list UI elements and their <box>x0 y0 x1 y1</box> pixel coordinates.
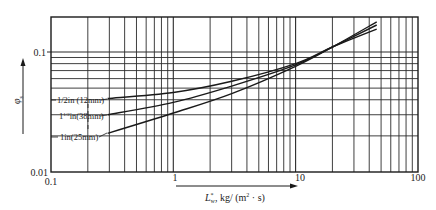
svg-text:1in(25mm): 1in(25mm) <box>60 132 98 142</box>
y-axis-arrowhead-icon <box>21 58 26 66</box>
x-tick-100: 100 <box>411 172 426 183</box>
y-axis-title: φs <box>11 95 24 104</box>
curves <box>108 22 377 133</box>
x-tick-10: 10 <box>295 172 305 183</box>
x-tick-0.1: 0.1 <box>45 176 58 187</box>
x-axis-title: L*w, kg/ (m2 · s) <box>204 192 265 204</box>
svg-text:11/2in(38mm): 11/2in(38mm) <box>59 111 104 121</box>
curve-1 <box>108 25 377 115</box>
x-axis-arrowhead-icon <box>290 184 298 189</box>
chart: 0.01 0.1 0.1 1 10 100 L*w, kg/ (m2 · s) … <box>0 0 436 210</box>
y-tick-0.1: 0.1 <box>34 47 47 58</box>
plot-frame <box>51 17 418 172</box>
curve-2 <box>108 22 377 133</box>
x-tick-1: 1 <box>173 172 178 183</box>
label-half-inch: 1/2in (12mm) <box>51 95 107 105</box>
svg-text:1/2in (12mm): 1/2in (12mm) <box>57 95 104 105</box>
label-one-and-half-inch: 11/2in(38mm) <box>59 111 107 121</box>
label-one-inch: 1in(25mm) <box>51 132 107 142</box>
